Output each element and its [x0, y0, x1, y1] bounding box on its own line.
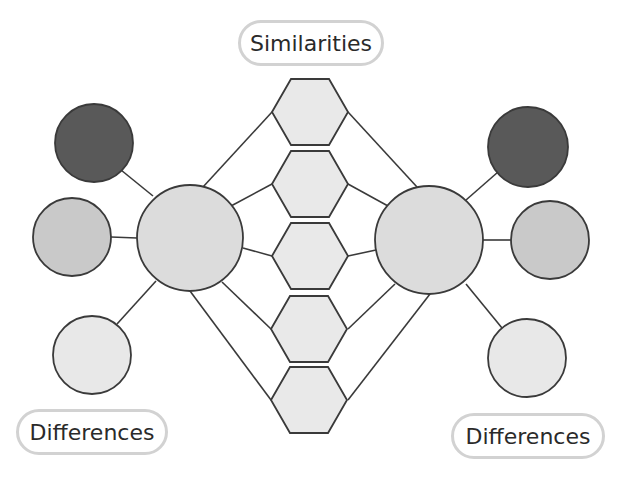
connector-left-hex2: [231, 184, 272, 206]
connector-left-hex5: [190, 291, 271, 400]
differences-left-label: Differences: [16, 409, 168, 455]
right-difference-light-circle[interactable]: [488, 319, 566, 397]
left-difference-light-circle[interactable]: [53, 316, 131, 394]
connector-left-hex1: [203, 112, 272, 187]
right-difference-dark-circle[interactable]: [488, 107, 568, 187]
similarity-hexagon-3[interactable]: [272, 223, 348, 289]
left-topic-circle[interactable]: [137, 185, 243, 291]
connector-right-dark: [466, 172, 498, 200]
right-topic-circle[interactable]: [375, 186, 483, 294]
connector-right-hex2: [348, 184, 388, 206]
similarity-hexagon-2[interactable]: [272, 151, 348, 217]
similarity-hexagon-1[interactable]: [272, 79, 348, 145]
connector-left-hex4: [222, 282, 271, 329]
connector-left-mid: [111, 237, 137, 238]
left-difference-dark-circle[interactable]: [55, 104, 133, 182]
similarity-hexagons: [271, 79, 348, 433]
connector-right-light: [466, 284, 502, 328]
connector-right-hex3: [348, 250, 376, 256]
connector-right-hex4: [348, 284, 395, 329]
connector-right-hex5: [348, 294, 430, 400]
similarity-hexagon-5[interactable]: [271, 367, 347, 433]
right-difference-mid-circle[interactable]: [511, 201, 589, 279]
connector-left-light: [117, 281, 156, 324]
similarity-hexagon-4[interactable]: [271, 296, 347, 362]
differences-right-label: Differences: [451, 413, 605, 459]
left-difference-mid-circle[interactable]: [33, 198, 111, 276]
connector-right-hex1: [348, 112, 417, 187]
connector-left-dark: [121, 170, 153, 196]
connector-left-hex3: [243, 248, 272, 256]
similarities-label: Similarities: [238, 20, 384, 66]
